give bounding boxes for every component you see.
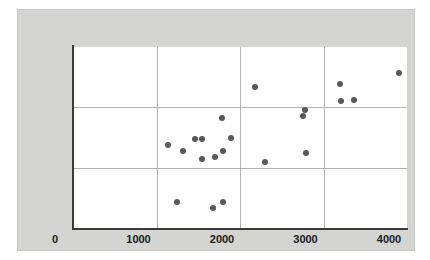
- data-point: [192, 136, 198, 142]
- data-point: [351, 97, 357, 103]
- gridline-horizontal: [73, 168, 407, 169]
- data-point: [300, 113, 306, 119]
- figure-frame: 0100200300 01000200030004000: [18, 10, 414, 250]
- x-tick-label: 1000: [126, 233, 150, 245]
- data-point: [180, 148, 186, 154]
- x-tick-label: 4000: [377, 233, 401, 245]
- x-tick-label: 2000: [210, 233, 234, 245]
- data-point: [252, 84, 258, 90]
- x-axis-line: [72, 228, 408, 230]
- plot-area: [73, 47, 407, 228]
- data-point: [337, 81, 343, 87]
- data-point: [220, 148, 226, 154]
- gridline-vertical: [157, 47, 158, 228]
- data-point: [396, 70, 402, 76]
- data-point: [262, 159, 268, 165]
- y-tick-labels: 0100200300: [18, 10, 68, 260]
- data-point: [174, 199, 180, 205]
- data-point: [210, 205, 216, 211]
- data-point: [302, 107, 308, 113]
- data-point: [338, 98, 344, 104]
- x-tick-label: 0: [52, 233, 58, 245]
- x-tick-label: 3000: [293, 233, 317, 245]
- data-point: [165, 142, 171, 148]
- gridline-vertical: [324, 47, 325, 228]
- gridline-horizontal: [73, 107, 407, 108]
- data-point: [199, 136, 205, 142]
- data-point: [228, 135, 234, 141]
- data-point: [220, 199, 226, 205]
- chart-figure: 0100200300 01000200030004000: [0, 0, 430, 260]
- data-point: [303, 150, 309, 156]
- data-point: [199, 156, 205, 162]
- data-point: [219, 115, 225, 121]
- gridline-vertical: [240, 47, 241, 228]
- y-axis-line: [72, 45, 74, 230]
- data-point: [212, 154, 218, 160]
